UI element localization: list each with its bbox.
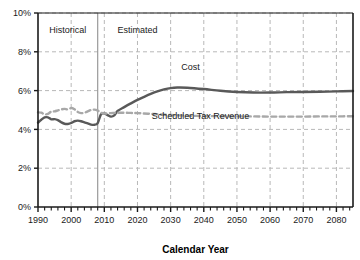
x-tick-label: 2030 [161,215,181,225]
y-tick-label: 6% [18,86,31,96]
x-tick-label: 1990 [28,215,48,225]
annotation-scheduled-tax-revenue: Scheduled Tax Revenue [152,111,249,121]
annotation-historical: Historical [49,25,86,35]
y-tick-label: 8% [18,47,31,57]
x-tick-label: 2080 [326,215,346,225]
y-tick-label: 0% [18,202,31,212]
x-tick-label: 2000 [61,215,81,225]
x-tick-label: 2010 [94,215,114,225]
chart-container: 0%2%4%6%8%10% 19902000201020202030204020… [0,0,360,260]
x-tick-label: 2020 [127,215,147,225]
x-tick-label: 2040 [194,215,214,225]
annotation-cost: Cost [181,62,200,72]
x-tick-label: 2060 [260,215,280,225]
y-tick-label: 2% [18,163,31,173]
y-tick-label: 10% [13,8,31,18]
y-tick-label: 4% [18,125,31,135]
x-axis-title: Calendar Year [162,244,229,255]
x-tick-label: 2070 [293,215,313,225]
x-tick-label: 2050 [227,215,247,225]
annotation-estimated: Estimated [117,25,157,35]
social-security-cost-revenue-chart: 0%2%4%6%8%10% 19902000201020202030204020… [0,0,360,260]
